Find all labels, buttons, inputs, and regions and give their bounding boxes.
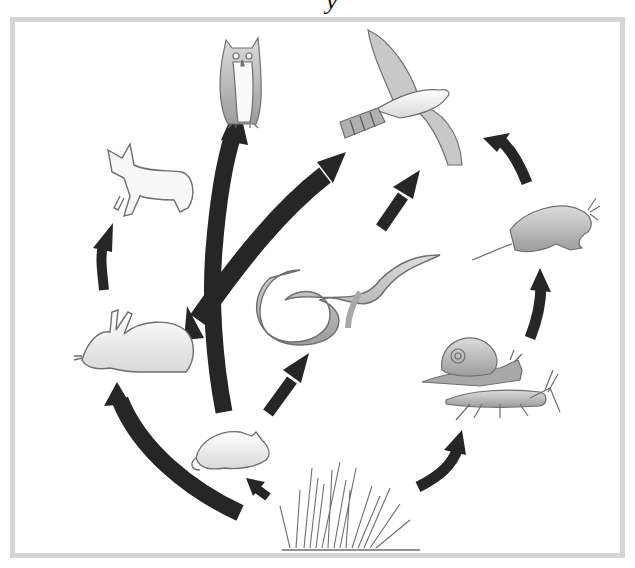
arrow-snake-to-hawk <box>381 170 420 228</box>
arrow-mouse-to-snake <box>268 353 309 413</box>
shrew-illustration <box>472 198 600 260</box>
arrow-shrew-to-hawk <box>483 133 527 183</box>
hawk-illustration <box>340 30 462 165</box>
snail-illustration <box>422 338 522 386</box>
arrow-rabbit-to-fox <box>93 223 113 290</box>
food-web-diagram <box>0 0 635 568</box>
mouse-illustration <box>192 432 269 470</box>
arrows <box>93 102 551 513</box>
fox-illustration <box>108 144 193 216</box>
arrow-snail-to-shrew <box>530 268 551 338</box>
grass-illustration <box>280 462 420 550</box>
rabbit-illustration <box>74 310 193 372</box>
arrow-grass-to-mouse <box>246 478 268 497</box>
arrow-grass-to-snail-grasshopper <box>418 430 466 487</box>
owl-illustration <box>220 38 261 128</box>
snake-illustration <box>257 255 440 345</box>
